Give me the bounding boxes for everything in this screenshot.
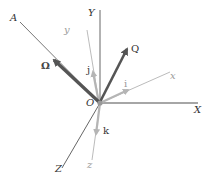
label-omega: Ω: [41, 61, 50, 71]
label-j: j: [87, 65, 90, 75]
vector-diagram: [0, 0, 212, 178]
label-k: k: [103, 126, 109, 136]
k-unit-vector: [96, 103, 100, 134]
label-Q: Q: [131, 44, 139, 54]
origin-point: [97, 100, 102, 105]
omega-vector: [54, 60, 99, 102]
label-A: A: [10, 13, 17, 23]
label-y: y: [64, 25, 70, 35]
label-i: i: [124, 79, 127, 89]
Q-vector: [100, 49, 127, 102]
label-Z: Z: [55, 164, 62, 174]
label-z: z: [87, 160, 92, 170]
label-x: x: [170, 71, 176, 81]
label-X: X: [194, 105, 201, 115]
label-O: O: [86, 98, 94, 108]
Z-axis: [62, 103, 100, 168]
label-Y: Y: [88, 8, 95, 18]
